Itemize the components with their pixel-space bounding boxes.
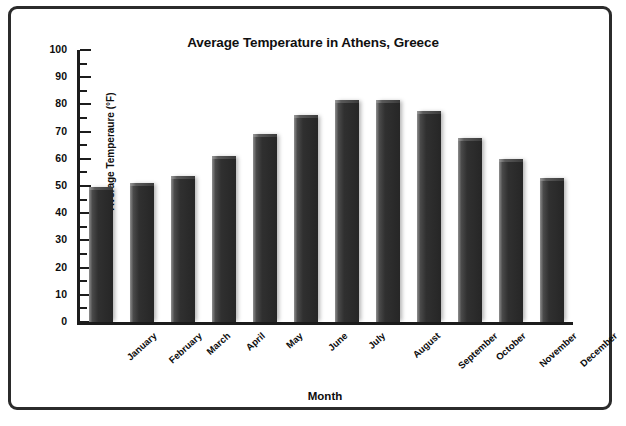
y-tick-label: 70 (7, 126, 67, 136)
bar[interactable] (540, 178, 564, 322)
bar-slot (409, 50, 450, 322)
bar[interactable] (212, 156, 236, 322)
bar[interactable] (417, 111, 441, 322)
bar-slot (327, 50, 368, 322)
y-tick-label: 20 (7, 262, 67, 272)
chart-frame: Average Temperature in Athens, Greece Av… (8, 6, 612, 410)
bar[interactable] (130, 183, 154, 322)
bar[interactable] (253, 134, 277, 322)
bar[interactable] (89, 187, 113, 322)
bar-slot (162, 50, 203, 322)
bar[interactable] (458, 138, 482, 322)
y-tick-label: 90 (7, 71, 67, 81)
x-tick-label: April (243, 330, 266, 353)
x-tick-label: February (166, 330, 204, 365)
x-tick-label: May (284, 330, 305, 351)
x-axis-line (77, 322, 573, 325)
y-tick-label: 50 (7, 180, 67, 190)
bar[interactable] (335, 100, 359, 322)
bar-slot (80, 50, 121, 322)
bar-slot (203, 50, 244, 322)
x-tick-label: March (204, 330, 232, 357)
bar-slot (491, 50, 532, 322)
x-tick-label: August (411, 330, 443, 360)
x-tick-label: July (366, 330, 387, 351)
bar[interactable] (171, 176, 195, 322)
x-tick-label: December (578, 330, 620, 369)
x-tick-label: November (537, 330, 579, 369)
x-tick-label: January (124, 330, 158, 363)
y-tick-label: 80 (7, 98, 67, 108)
x-tick-label: September (456, 330, 500, 371)
y-tick-label: 60 (7, 153, 67, 163)
bar-slot (285, 50, 326, 322)
plot-area: Average Temperaure (°F) 0102030405060708… (77, 50, 573, 325)
bar-slot (532, 50, 573, 322)
y-tick-label: 100 (7, 44, 67, 54)
x-tick-label: October (494, 330, 528, 363)
bar-series (80, 50, 573, 322)
y-tick-label: 40 (7, 207, 67, 217)
chart-title: Average Temperature in Athens, Greece (11, 35, 615, 50)
bar[interactable] (294, 115, 318, 322)
y-tick-label: 0 (7, 316, 67, 326)
bar-slot (450, 50, 491, 322)
bar-slot (368, 50, 409, 322)
x-axis-title: Month (77, 390, 573, 402)
y-tick-label: 10 (7, 289, 67, 299)
bar[interactable] (376, 100, 400, 322)
bar-slot (244, 50, 285, 322)
x-tick-label: June (326, 330, 350, 353)
y-tick-label: 30 (7, 234, 67, 244)
bar-slot (121, 50, 162, 322)
bar[interactable] (499, 159, 523, 322)
